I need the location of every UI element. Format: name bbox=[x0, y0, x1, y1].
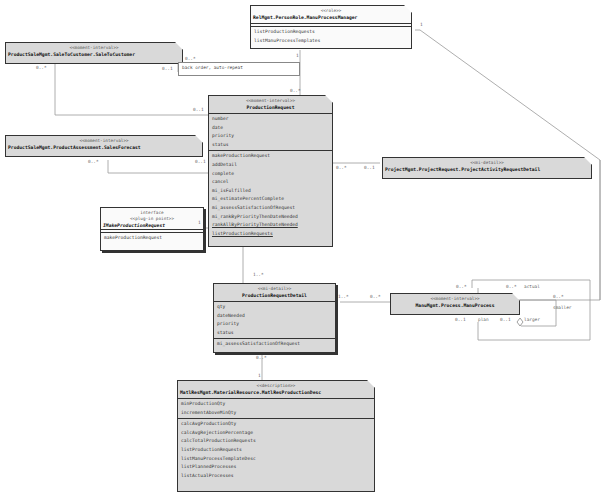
multiplicity-label: 0..* bbox=[370, 294, 381, 299]
method: complete bbox=[212, 170, 329, 179]
static-method: rankAllByPriorityThenDateNeeded bbox=[212, 221, 329, 230]
method: addDetail bbox=[212, 161, 329, 170]
multiplicity-label: 0..1 bbox=[195, 159, 206, 164]
class-project-activity-request-detail[interactable]: <<mi-detail>>ProjectMgmt.ProjectRequest.… bbox=[382, 157, 592, 179]
method: listActualProcesses bbox=[181, 472, 371, 481]
role-label-actual: actual bbox=[524, 284, 540, 289]
multiplicity-label: 1 bbox=[420, 22, 423, 27]
multiplicity-label: 0..* bbox=[336, 165, 347, 170]
attribute: minProductionQty bbox=[181, 400, 371, 409]
attribute: incrementAboveMinQty bbox=[181, 409, 371, 418]
attribute: status bbox=[217, 329, 332, 338]
method: listPlannedProcesses bbox=[181, 463, 371, 472]
multiplicity-label: 0..* bbox=[36, 65, 47, 70]
class-production-request[interactable]: <<moment-interval>>ProductionRequest num… bbox=[208, 95, 333, 247]
multiplicity-label: 0..1 bbox=[455, 317, 466, 322]
stereotype: <<moment-interval>> bbox=[8, 46, 180, 50]
class-sale-to-customer[interactable]: <<moment-interval>>ProductSaleMgmt.SaleT… bbox=[5, 42, 183, 64]
multiplicity-label: 1 bbox=[296, 53, 299, 58]
method: makeProductionRequest bbox=[212, 152, 329, 161]
multiplicity-label: 0..* bbox=[256, 355, 267, 360]
multiplicity-label: 0..* bbox=[456, 284, 467, 289]
multiplicity-label: 0..1 bbox=[193, 107, 204, 112]
stereotype: <<moment-interval>> bbox=[211, 99, 330, 103]
class-name: MatlResMgmt.MaterialResource.MatlResProd… bbox=[180, 391, 372, 396]
class-sales-forecast[interactable]: <<moment-interval>>ProductSaleMgmt.Produ… bbox=[5, 135, 203, 157]
class-manu-process-manager[interactable]: <<role>>RelMgmt.PersonRole.ManuProcessMa… bbox=[250, 5, 412, 49]
attribute: dateNeeded bbox=[217, 312, 332, 321]
class-name: RelMgmt.PersonRole.ManuProcessManager bbox=[253, 16, 409, 21]
method: calcAvgProductionQty bbox=[181, 420, 371, 429]
class-name: ProjectMgmt.ProjectRequest.ProjectActivi… bbox=[385, 168, 589, 173]
role-label-smaller: smaller bbox=[553, 305, 572, 310]
multiplicity-label: 0..* bbox=[506, 284, 517, 289]
attribute: qty bbox=[217, 303, 332, 312]
stereotype: <<role>> bbox=[253, 9, 409, 13]
attribute: date bbox=[212, 124, 329, 133]
multiplicity-label: 0..1 bbox=[500, 317, 511, 322]
class-name: ProductSaleMgmt.SaleToCustomer.SaleToCus… bbox=[8, 53, 180, 58]
method: listProductionRequests bbox=[254, 28, 408, 37]
stereotype: <<mi-detail>> bbox=[385, 161, 589, 165]
role-label-plan: plan bbox=[478, 317, 489, 322]
attribute: priority bbox=[212, 132, 329, 141]
stereotype: <<moment-interval>> bbox=[393, 297, 517, 301]
method: mi_estimatePercentComplete bbox=[212, 195, 329, 204]
stereotype: <<mi-detail>> bbox=[216, 287, 333, 291]
method: calcTotalProductionRequests bbox=[181, 437, 371, 446]
class-name: ProductionRequestDetail bbox=[216, 294, 333, 299]
attribute: status bbox=[212, 141, 329, 150]
static-method: listProductionRequests bbox=[212, 230, 329, 239]
multiplicity-label: 1..* bbox=[338, 294, 349, 299]
note-back-order: back order, auto-repeat bbox=[178, 62, 300, 76]
method: listManuProcessTemplates bbox=[254, 37, 408, 46]
stereotype: <<moment-interval>> bbox=[8, 139, 200, 143]
class-name: ProductSaleMgmt.ProductAssessment.SalesF… bbox=[8, 146, 200, 151]
stereotype: interface bbox=[103, 211, 201, 215]
multiplicity-label: 1 bbox=[258, 373, 261, 378]
multiplicity-label: 0..* bbox=[290, 88, 301, 93]
method: mi_assessSatisfactionOfRequest bbox=[212, 204, 329, 213]
multiplicity-label: 0..* bbox=[553, 294, 564, 299]
multiplicity-label: 1 bbox=[198, 220, 201, 225]
method: mi_rankByPriorityThenDateNeeded bbox=[212, 213, 329, 222]
role-label-larger: larger bbox=[524, 317, 540, 322]
stereotype: <<plug-in point>> bbox=[103, 217, 201, 221]
class-name: ManuMgmt.Process.ManuProcess bbox=[393, 304, 517, 309]
attribute: priority bbox=[217, 320, 332, 329]
multiplicity-label: 1..* bbox=[253, 272, 264, 277]
method: listProductionRequests bbox=[181, 446, 371, 455]
interface-make-production-request[interactable]: interface<<plug-in point>>IMakeProductio… bbox=[100, 207, 204, 251]
multiplicity-label: 0..1 bbox=[162, 66, 173, 71]
class-name: ProductionRequest bbox=[211, 106, 330, 111]
method: listManuProcessTemplateDesc bbox=[181, 455, 371, 464]
method: mi_assessSatisfactionOfRequest bbox=[217, 340, 332, 349]
method: makeProductionRequest bbox=[104, 234, 200, 243]
class-manu-process[interactable]: <<moment-interval>>ManuMgmt.Process.Manu… bbox=[390, 293, 520, 315]
multiplicity-label: 0..* bbox=[88, 159, 99, 164]
class-production-request-detail[interactable]: <<mi-detail>>ProductionRequestDetail qty… bbox=[213, 283, 336, 353]
method: calcAvgRejectionPercentage bbox=[181, 429, 371, 438]
attribute: number bbox=[212, 115, 329, 124]
method: cancel bbox=[212, 178, 329, 187]
multiplicity-label: 0..1 bbox=[364, 165, 375, 170]
class-name: IMakeProductionRequest bbox=[103, 224, 201, 229]
stereotype: <<description>> bbox=[180, 384, 372, 388]
class-matl-res-production-desc[interactable]: <<description>>MatlResMgmt.MaterialResou… bbox=[177, 380, 375, 492]
multiplicity-label: 0..* bbox=[185, 56, 196, 61]
method: mi_isFulfilled bbox=[212, 187, 329, 196]
